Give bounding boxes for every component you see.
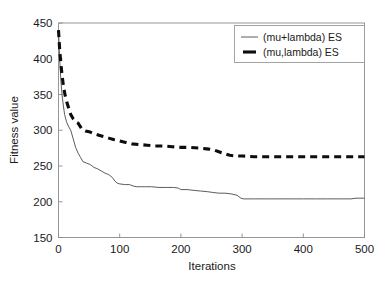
y-tick-label: 150 (33, 232, 52, 244)
chart-figure: 150200250300350400450 0100200300400500 F… (0, 0, 384, 285)
x-tick-label: 200 (171, 243, 190, 255)
y-tick-label: 350 (33, 89, 52, 101)
legend-label-0: (mu+lambda) ES (263, 31, 342, 43)
y-tick-label: 300 (33, 124, 52, 136)
y-tick-label: 200 (33, 196, 52, 208)
y-tick-label: 400 (33, 53, 52, 65)
y-axis-title: Fitness value (8, 96, 20, 164)
x-axis-ticks: 0100200300400500 (55, 234, 374, 255)
chart-legend[interactable]: (mu+lambda) ES (mu,lambda) ES (235, 26, 365, 63)
fitness-convergence-chart: 150200250300350400450 0100200300400500 F… (0, 0, 384, 285)
x-tick-label: 400 (294, 243, 313, 255)
legend-label-1: (mu,lambda) ES (263, 46, 339, 58)
x-tick-label: 0 (55, 243, 61, 255)
y-tick-label: 450 (33, 17, 52, 29)
x-axis-title: Iterations (188, 260, 236, 272)
x-tick-label: 100 (110, 243, 129, 255)
x-tick-label: 300 (233, 243, 252, 255)
y-tick-label: 250 (33, 160, 52, 172)
x-tick-label: 500 (355, 243, 374, 255)
